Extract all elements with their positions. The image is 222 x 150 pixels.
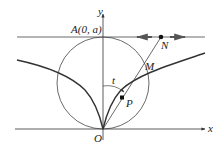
curve-left-branch	[17, 60, 103, 129]
label-point-m: M	[144, 60, 155, 72]
label-point-n: N	[160, 39, 169, 51]
cissoid-diagram: y x O A(0, a) N M P t	[0, 0, 222, 150]
label-y-axis: y	[97, 5, 103, 17]
point-p	[120, 96, 124, 100]
label-angle-t: t	[112, 74, 116, 86]
label-origin: O	[94, 132, 102, 144]
label-point-p: P	[125, 97, 133, 109]
label-point-a: A(0, a)	[70, 23, 102, 36]
label-x-axis: x	[207, 122, 213, 134]
